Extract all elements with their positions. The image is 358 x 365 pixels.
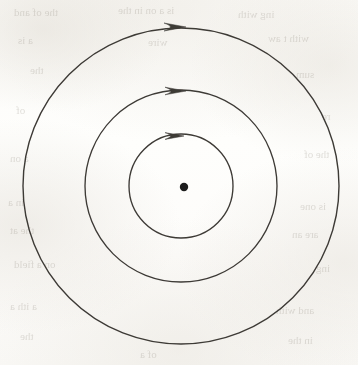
- center-dot-group: [180, 183, 188, 191]
- center-point: [180, 183, 188, 191]
- outer-arrowhead: [164, 23, 186, 31]
- field-line-diagram: [0, 0, 358, 365]
- figure-root: the of andis a on in theing witha iswire…: [0, 0, 358, 365]
- arrowheads-group: [164, 23, 186, 139]
